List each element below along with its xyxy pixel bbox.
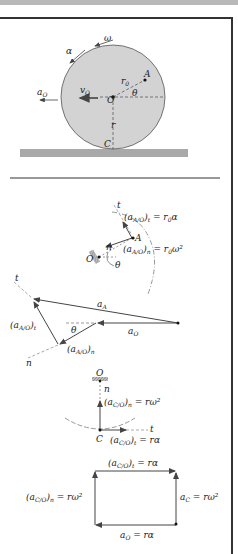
relative-accel-C-diagram: O n (aC/O)n = rω² C (aC/O)t = rα t: [65, 368, 161, 446]
label-aA: aA: [97, 299, 107, 310]
aAO-normal-vector: [60, 323, 96, 344]
n-axis2: [28, 345, 58, 358]
label-t: t: [117, 200, 121, 210]
vector-polygon-C: (aC/O)t = rα (aC/O)n = rω² aC = rω² aO =…: [26, 458, 219, 541]
label-aO: aO: [37, 87, 47, 98]
label-n3: n: [104, 384, 110, 394]
relative-accel-A-diagram: t (aA/O)t = r0α A (aA/O)n = r0ω² n O θ: [86, 200, 183, 294]
label-C: C: [104, 139, 111, 149]
aAO-tangential-vector: [34, 302, 58, 344]
label-aO2: aO: [128, 326, 138, 337]
label-n2: n: [26, 358, 32, 368]
label-n: n: [106, 242, 112, 252]
label-O3: O: [96, 368, 104, 378]
label-A2: A: [134, 233, 142, 243]
label-t2: t: [15, 273, 19, 283]
label-rect-left: (aC/O)n = rω²: [26, 492, 83, 503]
label-rect-top: (aC/O)t = rα: [108, 458, 158, 469]
rolling-disk-diagram: α ω aO vO O A r0 θ r C: [20, 33, 188, 157]
label-A: A: [143, 69, 151, 79]
theta-arc: [107, 252, 114, 266]
label-aAO-n: (aA/O)n: [67, 344, 95, 355]
label-O: O: [107, 95, 115, 105]
label-aAO-t: (aA/O)t: [10, 320, 37, 331]
label-O2: O: [86, 254, 94, 264]
t-axis2: [14, 282, 32, 298]
label-C2: C: [96, 434, 103, 444]
label-normal: (aA/O)n = r0ω²: [123, 244, 183, 255]
vector-polygon-A: t n aA aO θ (aA/O)t (aA/O)n: [10, 273, 180, 368]
label-tangential-C: (aC/O)t = rα: [110, 435, 160, 446]
label-theta3: θ: [71, 325, 77, 335]
label-r: r: [111, 120, 116, 130]
label-normal-C: (aC/O)n = rω²: [104, 397, 161, 408]
label-theta: θ: [132, 88, 138, 98]
ground: [20, 149, 188, 157]
label-theta2: θ: [115, 260, 121, 270]
tangential-accel-arrow: [123, 222, 132, 238]
label-t3: t: [150, 424, 154, 434]
label-rect-right: aC = rω²: [180, 492, 219, 503]
label-alpha: α: [66, 46, 72, 56]
label-tangential: (aA/O)t = r0α: [124, 212, 178, 223]
polygon-origin: [177, 322, 180, 325]
point-C: [99, 429, 102, 432]
label-rect-bottom: aO = rα: [120, 530, 154, 541]
dynamics-figure: α ω aO vO O A r0 θ r C t (aA/O)t = r0α A…: [0, 0, 238, 554]
point-O2: [98, 256, 101, 259]
label-omega: ω: [104, 33, 112, 43]
rect-origin: [175, 523, 178, 526]
